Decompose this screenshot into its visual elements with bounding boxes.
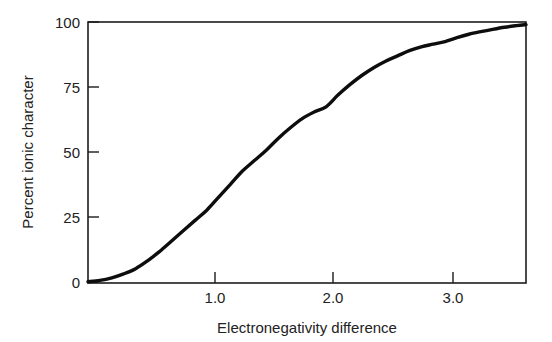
y-tick-label-100: 100 — [55, 14, 80, 31]
x-axis-title: Electronegativity difference — [217, 319, 397, 336]
plot-frame — [88, 22, 526, 283]
chart-canvas: 0 25 50 75 100 1.0 2.0 3.0 Electronegati… — [0, 0, 552, 342]
x-tick-label-1: 1.0 — [205, 289, 226, 306]
ionic-character-curve — [88, 25, 526, 282]
y-tick-label-0: 0 — [72, 274, 80, 291]
y-tick-label-75: 75 — [63, 79, 80, 96]
x-tick-label-3: 3.0 — [443, 289, 464, 306]
x-tick-label-2: 2.0 — [323, 289, 344, 306]
y-axis-tick-labels: 0 25 50 75 100 — [55, 14, 80, 291]
chart-figure: 0 25 50 75 100 1.0 2.0 3.0 Electronegati… — [0, 0, 552, 342]
y-axis-ticks — [88, 22, 99, 282]
x-axis-ticks — [215, 272, 453, 283]
x-axis-tick-labels: 1.0 2.0 3.0 — [205, 289, 464, 306]
y-tick-label-50: 50 — [63, 144, 80, 161]
y-axis-title: Percent ionic character — [19, 75, 36, 228]
y-tick-label-25: 25 — [63, 209, 80, 226]
